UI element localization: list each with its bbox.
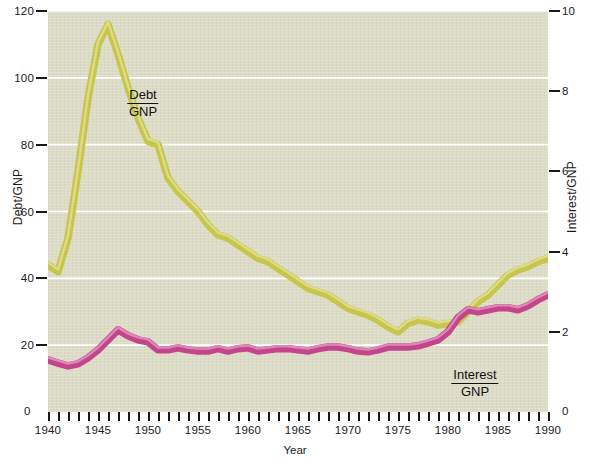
x-axis-title: Year bbox=[0, 444, 590, 456]
x-axis-tick-mark bbox=[468, 412, 470, 421]
x-axis-tick-mark bbox=[368, 412, 370, 421]
x-axis-tick-label: 1955 bbox=[185, 424, 211, 436]
y-axis-left-tick-mark bbox=[36, 344, 47, 346]
debt-gnp-annotation: Debt GNP bbox=[127, 88, 158, 119]
x-axis-tick-label: 1985 bbox=[485, 424, 511, 436]
x-axis-tick-mark bbox=[548, 412, 550, 421]
x-axis-tick-mark bbox=[458, 412, 460, 421]
y-axis-left-tick-label: 20 bbox=[0, 339, 34, 351]
x-axis-tick-mark bbox=[298, 412, 300, 421]
interest-annotation-numerator: Interest bbox=[451, 368, 498, 384]
x-axis-tick-mark bbox=[128, 412, 130, 421]
x-axis-tick-mark bbox=[188, 412, 190, 421]
x-axis-tick-mark bbox=[88, 412, 90, 421]
x-axis-tick-mark bbox=[68, 412, 70, 421]
x-axis-tick-mark bbox=[238, 412, 240, 421]
x-axis-tick-mark bbox=[478, 412, 480, 421]
zero-marker-right: 0 bbox=[562, 405, 568, 417]
x-axis-tick-mark bbox=[538, 412, 540, 421]
zero-marker-left: 0 bbox=[24, 405, 30, 417]
y-axis-left-tick-label: 40 bbox=[0, 272, 34, 284]
y-axis-right-tick-mark bbox=[549, 251, 560, 253]
y-axis-right-tick-mark bbox=[549, 170, 560, 172]
x-axis-tick-mark bbox=[428, 412, 430, 421]
y-axis-left-tick-label: 120 bbox=[0, 5, 34, 17]
x-axis-tick-mark bbox=[498, 412, 500, 421]
y-axis-right-tick-mark bbox=[549, 331, 560, 333]
x-axis-tick-mark bbox=[58, 412, 60, 421]
x-axis-tick-label: 1940 bbox=[35, 424, 61, 436]
chart-figure: Debt GNP Interest GNP 020406080100120 De… bbox=[0, 0, 590, 466]
x-axis-tick-mark bbox=[168, 412, 170, 421]
x-axis-tick-mark bbox=[418, 412, 420, 421]
interest-annotation-denominator: GNP bbox=[451, 384, 498, 400]
plot-area: Debt GNP Interest GNP bbox=[48, 11, 548, 412]
x-axis-tick-mark bbox=[208, 412, 210, 421]
x-axis-tick-mark bbox=[398, 412, 400, 421]
x-axis-tick-mark bbox=[268, 412, 270, 421]
y-axis-right-title: Interest/GNP bbox=[565, 137, 579, 257]
x-axis-tick-mark bbox=[158, 412, 160, 421]
x-axis-tick-mark bbox=[388, 412, 390, 421]
x-axis-tick-mark bbox=[178, 412, 180, 421]
x-axis-tick-mark bbox=[108, 412, 110, 421]
x-axis-tick-mark bbox=[408, 412, 410, 421]
y-axis-left-tick-mark bbox=[36, 277, 47, 279]
x-axis-tick-label: 1965 bbox=[285, 424, 311, 436]
x-axis-tick-mark bbox=[48, 412, 50, 421]
x-axis-tick-mark bbox=[508, 412, 510, 421]
interest-gnp-annotation: Interest GNP bbox=[451, 368, 498, 399]
x-axis-tick-label: 1990 bbox=[535, 424, 561, 436]
y-axis-left-tick-mark bbox=[36, 144, 47, 146]
series-debt-gnp bbox=[48, 22, 548, 332]
x-axis-tick-mark bbox=[438, 412, 440, 421]
y-axis-left-tick-mark bbox=[36, 10, 47, 12]
debt-annotation-numerator: Debt bbox=[127, 88, 158, 104]
x-axis-tick-mark bbox=[98, 412, 100, 421]
x-axis-tick-mark bbox=[228, 412, 230, 421]
x-axis-tick-label: 1980 bbox=[435, 424, 461, 436]
y-axis-right-tick-label: 8 bbox=[562, 85, 590, 97]
x-axis-tick-mark bbox=[488, 412, 490, 421]
y-axis-right-tick-mark bbox=[549, 10, 560, 12]
x-axis-tick-mark bbox=[78, 412, 80, 421]
x-axis-tick-mark bbox=[338, 412, 340, 421]
x-axis-tick-mark bbox=[138, 412, 140, 421]
x-axis-tick-mark bbox=[348, 412, 350, 421]
x-axis-tick-mark bbox=[378, 412, 380, 421]
x-axis-tick-label: 1945 bbox=[85, 424, 111, 436]
x-axis-tick-mark bbox=[288, 412, 290, 421]
x-axis-tick-mark bbox=[528, 412, 530, 421]
x-axis-tick-mark bbox=[198, 412, 200, 421]
x-axis-tick-mark bbox=[448, 412, 450, 421]
y-axis-left-tick-mark bbox=[36, 211, 47, 213]
y-axis-left-title: Debt/GNP bbox=[11, 137, 25, 257]
debt-annotation-denominator: GNP bbox=[127, 104, 158, 120]
x-axis-tick-mark bbox=[218, 412, 220, 421]
x-axis-tick-mark bbox=[328, 412, 330, 421]
y-axis-right-tick-label: 10 bbox=[562, 5, 590, 17]
x-axis-tick-mark bbox=[278, 412, 280, 421]
x-axis-tick-mark bbox=[248, 412, 250, 421]
x-axis-labels: 1940194519501955196019651970197519801985… bbox=[0, 424, 590, 440]
x-axis-tick-mark bbox=[358, 412, 360, 421]
x-axis-tick-mark bbox=[258, 412, 260, 421]
x-axis-tick-mark bbox=[118, 412, 120, 421]
x-axis-tick-label: 1975 bbox=[385, 424, 411, 436]
y-axis-left-tick-label: 100 bbox=[0, 72, 34, 84]
y-axis-right-tick-label: 2 bbox=[562, 326, 590, 338]
x-axis-tick-label: 1960 bbox=[235, 424, 261, 436]
x-axis-tick-label: 1950 bbox=[135, 424, 161, 436]
y-axis-right-tick-mark bbox=[549, 90, 560, 92]
x-axis-tick-label: 1970 bbox=[335, 424, 361, 436]
x-axis-tick-mark bbox=[318, 412, 320, 421]
x-axis-ticks bbox=[48, 412, 548, 422]
plot-canvas bbox=[48, 11, 548, 412]
x-axis-tick-mark bbox=[308, 412, 310, 421]
x-axis-tick-mark bbox=[148, 412, 150, 421]
y-axis-left-tick-mark bbox=[36, 77, 47, 79]
x-axis-tick-mark bbox=[518, 412, 520, 421]
